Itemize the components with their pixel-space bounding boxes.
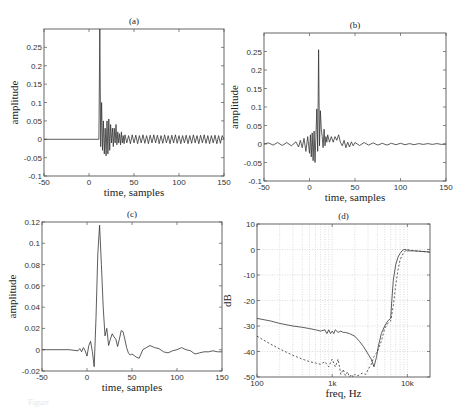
- x-tick-label: 100: [170, 373, 184, 382]
- y-tick-label: -20: [243, 297, 255, 306]
- x-tick-label: 100: [172, 178, 186, 187]
- subplot-title: (a): [129, 16, 139, 26]
- subplot-d: 1001k10k-50-40-30-20-10010(d)freq, HzdB: [221, 211, 430, 399]
- y-tick-label: 0.15: [246, 85, 262, 94]
- y-tick-label: 0.2: [31, 62, 43, 71]
- y-axis-label: amplitude: [8, 80, 20, 124]
- x-tick-label: 100: [394, 183, 408, 192]
- y-tick-label: 0.1: [31, 99, 43, 108]
- series-line-impulse-response: [44, 29, 224, 156]
- y-tick-label: 0.06: [24, 282, 40, 291]
- y-tick-label: 0.08: [24, 261, 40, 270]
- series-line-dashed: [257, 250, 430, 378]
- y-tick-label: -10: [243, 271, 255, 280]
- x-axis-label: time, samples: [104, 186, 165, 198]
- x-tick-label: 0: [307, 183, 312, 192]
- y-tick-label: 0.1: [29, 239, 41, 248]
- y-tick-label: 0: [38, 135, 43, 144]
- x-tick-label: 150: [215, 373, 229, 382]
- y-tick-label: 0.2: [251, 66, 263, 75]
- y-tick-label: 0.05: [26, 117, 42, 126]
- series-line-response: [42, 225, 222, 367]
- x-tick-label: 0: [85, 373, 90, 382]
- y-tick-label: -0.1: [248, 177, 262, 186]
- y-tick-label: 0.1: [251, 103, 263, 112]
- y-tick-label: 0: [258, 140, 263, 149]
- y-tick-label: 0.05: [246, 122, 262, 131]
- y-tick-label: 0.04: [24, 303, 40, 312]
- series-line-equalized-response: [264, 50, 446, 163]
- y-tick-label: 0.25: [26, 43, 42, 52]
- y-tick-label: 10: [246, 220, 255, 229]
- y-tick-label: -30: [243, 322, 255, 331]
- y-tick-label: -50: [243, 373, 255, 382]
- subplot-c: -50050100150-0.0200.020.040.060.080.10.1…: [6, 209, 229, 393]
- plot-frame-a: [44, 29, 224, 176]
- subplot-title: (c): [127, 209, 137, 219]
- y-tick-label: 0.12: [24, 218, 40, 227]
- y-axis-label: amplitude: [6, 274, 18, 318]
- y-tick-label: 0.25: [246, 48, 262, 57]
- y-tick-label: -0.05: [24, 154, 43, 163]
- subplot-title: (b): [350, 20, 361, 30]
- grid-d: [257, 224, 430, 377]
- y-tick-label: 0.02: [24, 324, 40, 333]
- x-tick-label: 150: [217, 178, 231, 187]
- y-axis-label: amplitude: [228, 85, 240, 129]
- x-axis-label: time, samples: [102, 381, 163, 393]
- x-axis-label: time, samples: [325, 191, 386, 203]
- subplot-b: -50050100150-0.1-0.0500.050.10.150.20.25…: [228, 20, 453, 203]
- y-tick-label: 0: [36, 346, 41, 355]
- x-tick-label: 150: [439, 183, 453, 192]
- subplot-a: -50050100150-0.1-0.0500.050.10.150.20.25…: [8, 16, 231, 198]
- y-tick-label: 0.15: [26, 80, 42, 89]
- y-tick-label: -0.02: [22, 367, 41, 376]
- y-axis-label: dB: [221, 294, 233, 307]
- y-tick-label: -0.05: [244, 159, 263, 168]
- plot-frame-c: [42, 222, 222, 371]
- x-axis-label: freq, Hz: [325, 387, 361, 399]
- y-tick-label: 0: [251, 246, 256, 255]
- subplot-title: (d): [338, 211, 349, 221]
- y-tick-label: -0.1: [28, 172, 42, 181]
- figure-canvas: -50050100150-0.1-0.0500.050.10.150.20.25…: [0, 0, 456, 410]
- x-tick-label: 10k: [401, 379, 415, 388]
- figure-caption: Figure: [28, 398, 49, 407]
- x-tick-label: 0: [87, 178, 92, 187]
- plot-frame-b: [264, 33, 446, 181]
- y-tick-label: -40: [243, 348, 255, 357]
